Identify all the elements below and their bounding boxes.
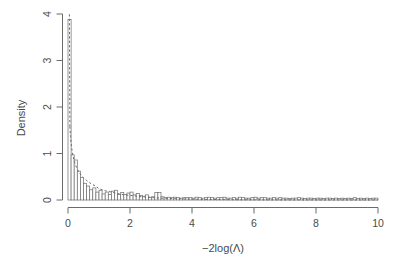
y-axis-tick-label: 0 (41, 197, 53, 203)
x-axis-tick-label: 4 (189, 217, 195, 229)
x-axis-tick-label: 6 (251, 217, 257, 229)
x-axis-tick-label: 0 (65, 217, 71, 229)
histogram-bar (121, 193, 124, 200)
figure-container: 01234 0246810 Density −2log(Λ) (0, 0, 400, 266)
x-axis-tick-label: 10 (372, 217, 384, 229)
histogram-bar (118, 194, 121, 200)
histogram-bar (90, 190, 93, 200)
histogram-bar (158, 193, 161, 200)
histogram-bar (155, 193, 158, 200)
y-axis-tick-label: 1 (41, 150, 53, 156)
y-axis-title: Density (15, 99, 27, 136)
histogram-chart: 01234 0246810 Density −2log(Λ) (0, 0, 400, 266)
y-axis-tick-label: 2 (41, 104, 53, 110)
histogram-bar (127, 193, 130, 200)
histogram-bar (115, 190, 118, 200)
x-axis-title: −2log(Λ) (202, 242, 244, 254)
histogram-bar (80, 178, 83, 200)
x-axis-tick-label: 8 (313, 217, 319, 229)
histogram-bar (102, 194, 105, 200)
histogram-bar (77, 171, 80, 200)
y-axis-tick-label: 3 (41, 57, 53, 63)
x-axis-tick-label: 2 (127, 217, 133, 229)
histogram-bar (87, 186, 90, 200)
histogram-bar (71, 155, 74, 200)
histogram-bar (96, 192, 99, 200)
histogram-bar (139, 195, 142, 200)
plot-background (0, 0, 400, 266)
histogram-bar (108, 194, 111, 200)
histogram-bar (99, 190, 102, 200)
histogram-bar (93, 188, 96, 200)
y-axis-tick-label: 4 (41, 11, 53, 17)
histogram-bar (84, 183, 87, 200)
histogram-bar (136, 193, 139, 200)
histogram-bar (105, 192, 108, 200)
